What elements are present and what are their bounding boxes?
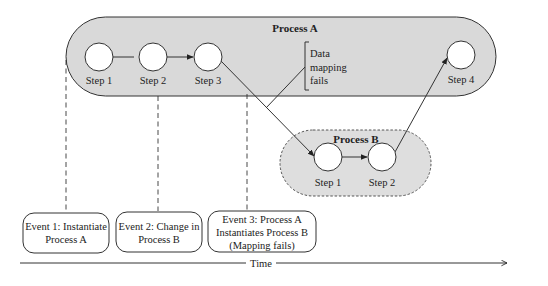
- process-diagram: Process A Process B Data mapping fails S…: [0, 0, 548, 286]
- a-step-1-label: Step 1: [86, 75, 113, 86]
- b-step-2-label: Step 2: [369, 177, 396, 188]
- a-step-4-node: [447, 41, 475, 69]
- a-step-2-node: [139, 43, 167, 71]
- event-3-line-3: (Mapping fails): [229, 240, 295, 252]
- process-b-title: Process B: [333, 133, 379, 145]
- event-1-line-1: Event 1: Instantiate: [25, 221, 107, 232]
- event-2-line-1: Event 2: Change in: [119, 221, 201, 232]
- b-step-1-node: [314, 143, 342, 171]
- timeline-label: Time: [250, 258, 272, 269]
- event-1-line-2: Process A: [45, 234, 87, 245]
- b-step-2-node: [368, 143, 396, 171]
- a-step-3-node: [194, 43, 222, 71]
- b-step-1-label: Step 1: [315, 177, 342, 188]
- event-1-box: [23, 213, 109, 253]
- a-step-1-node: [85, 43, 113, 71]
- a-step-4-label: Step 4: [448, 74, 475, 85]
- a-step-3-label: Step 3: [195, 75, 222, 86]
- process-a-title: Process A: [272, 22, 317, 34]
- annotation-line-1: Data: [310, 48, 330, 59]
- annotation-line-3: fails: [310, 75, 328, 86]
- annotation-line-2: mapping: [310, 62, 347, 73]
- a-step-2-label: Step 2: [140, 75, 167, 86]
- event-3-line-2: Instantiates Process B: [216, 227, 308, 238]
- event-2-box: [116, 212, 202, 252]
- event-3-line-1: Event 3: Process A: [222, 214, 302, 225]
- event-2-line-2: Process B: [138, 234, 180, 245]
